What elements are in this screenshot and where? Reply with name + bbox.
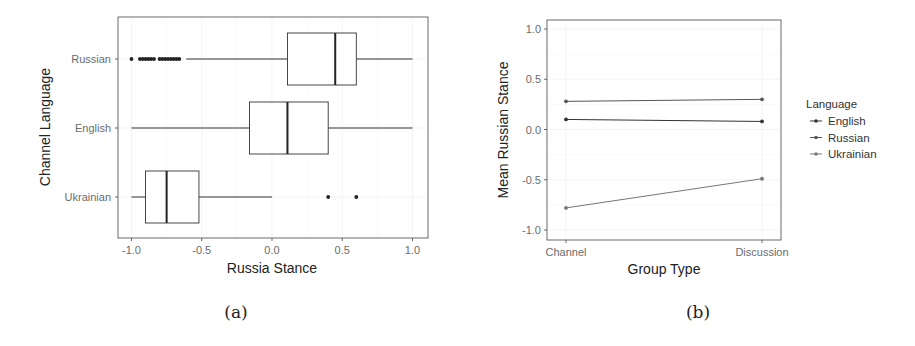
legend-item-russian: Russian: [810, 132, 870, 144]
line-chart-panel: 1.00.50.0-0.5-1.0 ChannelDiscussion Grou…: [495, 20, 877, 322]
data-point: [564, 99, 568, 103]
legend-item-ukrainian: Ukrainian: [810, 148, 877, 160]
y-tick-label: English: [75, 122, 111, 134]
x-tick-label: -0.5: [192, 244, 211, 256]
x-tick-label: 1.0: [405, 244, 420, 256]
legend-title: Language: [806, 98, 857, 110]
legend-item-english: English: [810, 115, 866, 127]
x-tick-label: Discussion: [735, 246, 788, 258]
legend-label: Russian: [828, 132, 870, 144]
x-axis-ticks: ChannelDiscussion: [546, 240, 789, 258]
y-tick-label: Russian: [71, 53, 111, 65]
x-axis-ticks: -1.0-0.50.00.51.0: [122, 238, 420, 256]
data-point: [564, 118, 568, 122]
data-point: [760, 177, 764, 181]
y-axis-title: Mean Russian Stance: [495, 61, 511, 198]
y-tick-label: 0.5: [526, 73, 541, 85]
y-tick-label: 0.0: [526, 124, 541, 136]
plot-frame: [547, 20, 781, 240]
boxplot-panel: -1.0-0.50.00.51.0 RussianEnglishUkrainia…: [37, 17, 428, 322]
y-tick-label: -0.5: [522, 174, 541, 186]
y-tick-label: Ukrainian: [65, 191, 111, 203]
legend-label: Ukrainian: [828, 148, 877, 160]
figure: -1.0-0.50.00.51.0 RussianEnglishUkrainia…: [0, 0, 915, 346]
outlier-point: [152, 57, 156, 61]
x-tick-label: 0.0: [264, 244, 279, 256]
outlier-point: [177, 57, 181, 61]
x-tick-label: Channel: [546, 246, 587, 258]
outlier-point: [354, 195, 358, 199]
outlier-point: [326, 195, 330, 199]
legend-label: English: [828, 115, 866, 127]
x-axis-title: Russia Stance: [227, 260, 317, 276]
y-axis-ticks: RussianEnglishUkrainian: [65, 53, 118, 203]
data-point: [760, 97, 764, 101]
outlier-point: [130, 57, 134, 61]
data-point: [564, 206, 568, 210]
x-axis-title: Group Type: [628, 261, 701, 277]
y-tick-label: 1.0: [526, 23, 541, 35]
data-point: [760, 120, 764, 124]
x-tick-label: -1.0: [122, 244, 141, 256]
legend: Language EnglishRussianUkrainian: [806, 98, 877, 160]
y-tick-label: -1.0: [522, 224, 541, 236]
x-tick-label: 0.5: [335, 244, 350, 256]
caption-b: (b): [686, 302, 710, 322]
y-axis-ticks: 1.00.50.0-0.5-1.0: [522, 23, 547, 236]
y-axis-title: Channel Language: [37, 68, 53, 187]
caption-a: (a): [224, 302, 247, 322]
